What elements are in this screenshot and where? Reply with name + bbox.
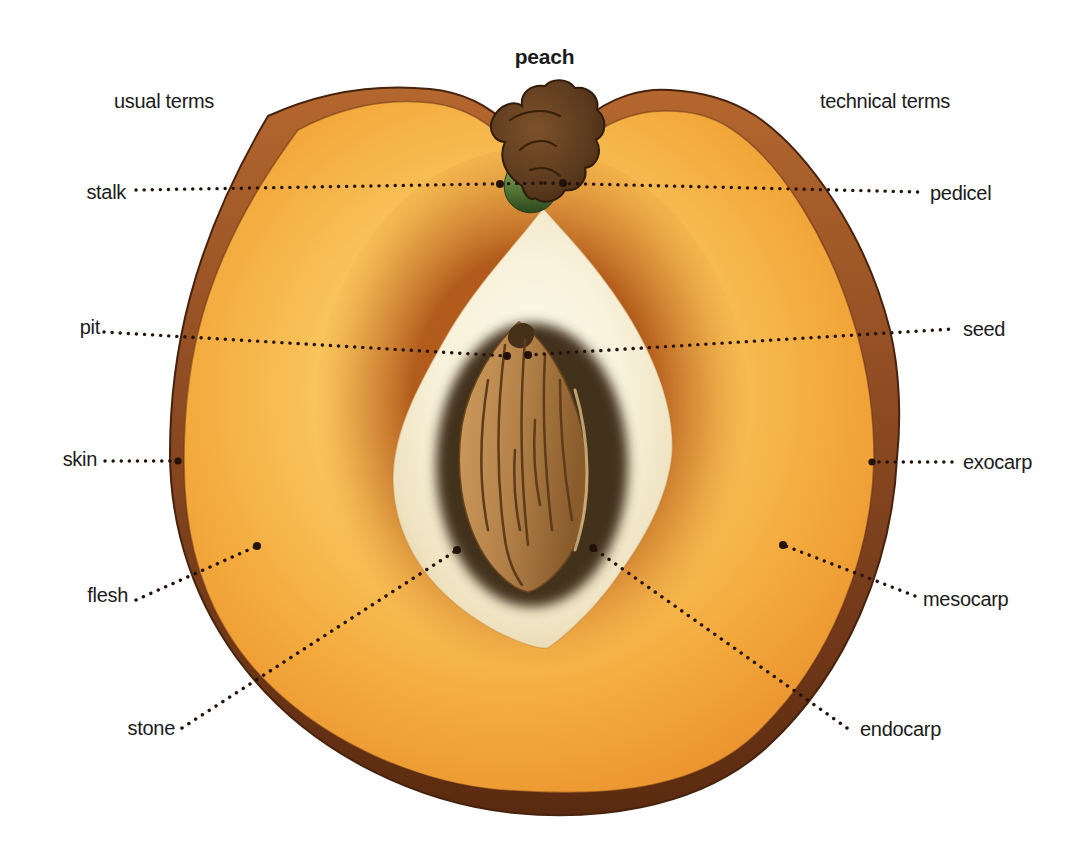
endpoint-pit [503,352,511,360]
endpoint-skin [174,457,181,464]
endpoint-exocarp [868,458,875,465]
left-column-header: usual terms [114,88,214,114]
endpoint-endocarp [589,544,597,552]
label-exocarp: exocarp [963,450,1032,474]
label-mesocarp: mesocarp [923,587,1008,611]
endpoint-stalk-pedicel [496,180,504,188]
endpoint-seed [524,351,532,359]
endpoint-mesocarp [779,541,787,549]
endpoint-flesh [253,542,261,550]
peach-illustration [0,0,1089,841]
right-column-header: technical terms [820,88,950,114]
endpoint-stem [559,179,567,187]
label-seed: seed [963,317,1005,341]
label-pedicel: pedicel [930,181,991,205]
peach-diagram: peach usual terms technical terms stalk … [0,0,1089,841]
label-pit: pit [80,315,100,339]
label-stone: stone [128,716,175,740]
label-endocarp: endocarp [860,717,941,741]
diagram-title: peach [0,45,1089,69]
label-flesh: flesh [87,583,128,607]
endpoint-stone [453,546,461,554]
label-stalk: stalk [86,180,126,204]
label-skin: skin [63,447,97,471]
